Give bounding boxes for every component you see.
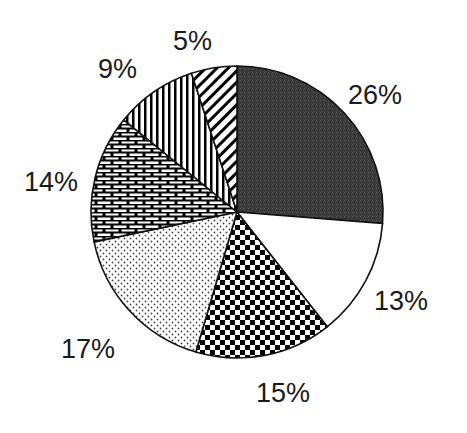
slice-label-14: 14% (24, 167, 78, 197)
pie-chart: 26% 13% 15% 17% 14% 9% 5% (0, 0, 467, 433)
slice-label-26: 26% (348, 80, 402, 110)
slice-label-13: 13% (374, 286, 428, 316)
slice-label-5: 5% (173, 26, 212, 56)
slice-label-9: 9% (98, 54, 137, 84)
slice-label-17: 17% (61, 334, 115, 364)
slice-label-15: 15% (256, 378, 310, 408)
pie-slices (91, 66, 383, 358)
